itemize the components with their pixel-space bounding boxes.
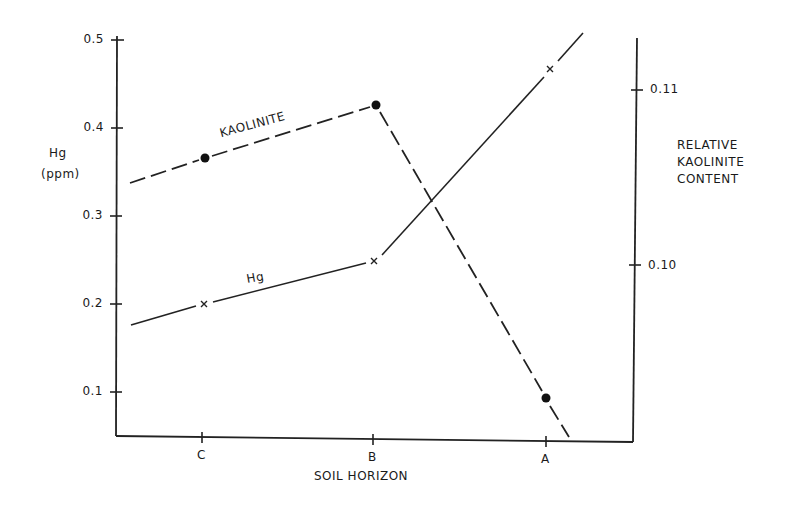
kaolinite-dot-markers: [201, 101, 551, 403]
x-tick-b: B: [368, 450, 377, 465]
right-tick-0-10: 0.10: [648, 258, 677, 273]
x-tick-a: A: [541, 452, 550, 467]
series-hg: [131, 33, 583, 325]
series-kaolinite: [130, 107, 569, 437]
right-tick-0-11: 0.11: [650, 82, 679, 97]
left-y-axis: [116, 36, 117, 436]
left-tick-0-5: 0.5: [64, 32, 104, 47]
right-axis-title-line1: RELATIVE: [677, 138, 738, 153]
x-axis: [116, 436, 633, 442]
left-tick-0-3: 0.3: [63, 208, 103, 223]
left-tick-0-1: 0.1: [63, 384, 103, 399]
left-tick-0-4: 0.4: [64, 120, 104, 135]
left-tick-0-2: 0.2: [63, 296, 103, 311]
hg-series-label: Hg: [245, 269, 265, 287]
x-axis-title: SOIL HORIZON: [314, 469, 408, 484]
x-tick-c: C: [197, 448, 206, 463]
left-axis-title-line2: (ppm): [41, 167, 80, 182]
chart-canvas: [0, 0, 790, 514]
right-y-axis: [633, 38, 637, 442]
right-axis-title-line2: KAOLINITE: [677, 155, 744, 170]
left-axis-title-line1: Hg: [49, 146, 67, 161]
right-axis-title-line3: CONTENT: [677, 172, 739, 187]
